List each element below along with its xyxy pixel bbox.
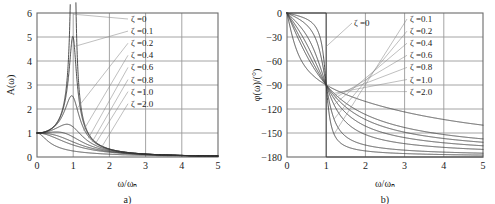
x-axis-label: ω/ωₙ [375, 178, 395, 189]
svg-text:0: 0 [277, 8, 282, 19]
svg-text:1: 1 [71, 160, 76, 171]
legend-zeta-zero: ζ =0 [354, 18, 370, 28]
legend-phase: ζ =0.1ζ =0.2ζ =0.4ζ =0.6ζ =0.8ζ =1.0ζ =2… [410, 14, 433, 97]
svg-text:0: 0 [35, 160, 40, 171]
svg-text:6: 6 [27, 8, 32, 19]
svg-text:2: 2 [107, 160, 112, 171]
x-tick-labels: 012345 [285, 160, 486, 171]
svg-text:−30: −30 [266, 32, 282, 43]
panel-phase: 012345 0−30−60−90−120−150−180 ζ =0.1ζ =0… [247, 0, 495, 204]
legend-leader-lines [73, 14, 128, 150]
svg-text:5: 5 [216, 160, 221, 171]
svg-text:ζ =0.4: ζ =0.4 [410, 38, 433, 48]
y-axis-label: A(ω) [5, 75, 17, 95]
svg-text:ζ =2.0: ζ =2.0 [131, 99, 154, 109]
svg-text:−150: −150 [261, 128, 282, 139]
svg-text:ζ =0.6: ζ =0.6 [410, 50, 433, 60]
svg-text:ζ =0.8: ζ =0.8 [131, 75, 154, 85]
svg-text:0: 0 [27, 152, 32, 163]
svg-text:ζ =0.2: ζ =0.2 [410, 26, 432, 36]
svg-text:1: 1 [27, 128, 32, 139]
y-tick-labels: 0−30−60−90−120−150−180 [261, 8, 282, 163]
svg-text:ζ =1.0: ζ =1.0 [410, 75, 433, 85]
svg-text:ζ =0: ζ =0 [131, 14, 147, 24]
svg-text:4: 4 [441, 160, 446, 171]
panel-caption-a: a) [124, 194, 132, 204]
panel-magnitude: 012345 0123456 ζ =0ζ =0.1ζ =0.2ζ =0.4ζ =… [0, 0, 247, 204]
svg-text:3: 3 [143, 160, 148, 171]
svg-text:−90: −90 [266, 80, 282, 91]
svg-text:ζ =2.0: ζ =2.0 [410, 87, 433, 97]
frequency-response-figure: 012345 0123456 ζ =0ζ =0.1ζ =0.2ζ =0.4ζ =… [0, 0, 495, 204]
svg-text:3: 3 [27, 80, 32, 91]
svg-text:ζ =1.0: ζ =1.0 [131, 87, 154, 97]
svg-text:ζ =0.1: ζ =0.1 [131, 26, 153, 36]
y-axis-label: φ(ω)/(°) [251, 69, 263, 101]
phase-chart: 012345 0−30−60−90−120−150−180 ζ =0.1ζ =0… [247, 0, 495, 204]
svg-text:−180: −180 [261, 152, 282, 163]
svg-text:ζ =0.1: ζ =0.1 [410, 14, 432, 24]
svg-text:5: 5 [27, 32, 32, 43]
svg-text:4: 4 [179, 160, 184, 171]
svg-text:2: 2 [27, 104, 32, 115]
svg-text:ζ =0.2: ζ =0.2 [131, 38, 153, 48]
svg-text:4: 4 [27, 56, 32, 67]
svg-text:5: 5 [481, 160, 486, 171]
magnitude-chart: 012345 0123456 ζ =0ζ =0.1ζ =0.2ζ =0.4ζ =… [0, 0, 247, 204]
svg-text:2: 2 [363, 160, 368, 171]
svg-text:0: 0 [285, 160, 290, 171]
y-tick-labels: 0123456 [27, 8, 32, 163]
svg-text:−60: −60 [266, 56, 282, 67]
svg-text:−120: −120 [261, 104, 282, 115]
legend-leader-lines [326, 19, 407, 134]
svg-text:ζ =0.8: ζ =0.8 [410, 62, 433, 72]
x-tick-labels: 012345 [35, 160, 221, 171]
svg-text:ζ =0.6: ζ =0.6 [131, 62, 154, 72]
svg-text:1: 1 [324, 160, 329, 171]
panel-caption-b: b) [381, 194, 389, 204]
gridlines-magnitude [37, 13, 218, 157]
svg-text:3: 3 [402, 160, 407, 171]
svg-text:ζ =0.4: ζ =0.4 [131, 50, 154, 60]
x-axis-label: ω/ωₙ [118, 178, 138, 189]
